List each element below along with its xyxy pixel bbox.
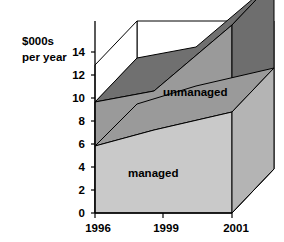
- xtick-label-1996: 1996: [85, 222, 111, 234]
- three-d-area-chart: $000s per year 0 2 4 6 8 10 12 14 1996 1…: [0, 0, 284, 242]
- ytick-label-2: 2: [79, 184, 85, 196]
- ytick-label-4: 4: [79, 161, 86, 173]
- ytick-label-6: 6: [79, 138, 85, 150]
- series-label-managed: managed: [128, 167, 179, 179]
- ytick-label-0: 0: [79, 207, 85, 219]
- chart-container: $000s per year 0 2 4 6 8 10 12 14 1996 1…: [0, 0, 284, 242]
- series-label-unmanaged: unmanaged: [163, 86, 228, 98]
- ytick-label-10: 10: [72, 92, 85, 104]
- xtick-label-1999: 1999: [153, 222, 179, 234]
- xtick-label-2001: 2001: [223, 222, 249, 234]
- ytick-label-14: 14: [72, 46, 85, 58]
- ytick-label-8: 8: [79, 115, 86, 127]
- y-axis-title-line2: per year: [22, 51, 67, 63]
- y-axis-title-line1: $000s: [22, 35, 54, 47]
- ytick-label-12: 12: [72, 69, 85, 81]
